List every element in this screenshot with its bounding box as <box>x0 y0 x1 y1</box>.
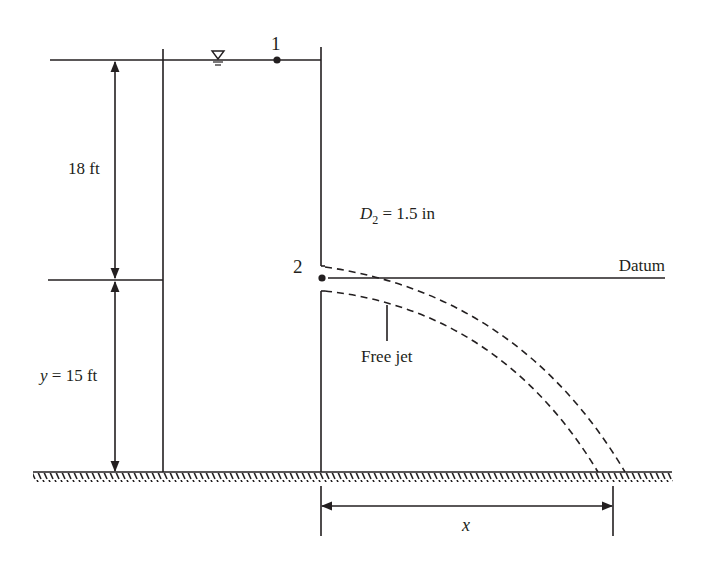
datum-label: Datum <box>619 256 665 275</box>
tank-diagram: 1 18 ft y = 15 ft 2 Datum D2 = 1.5 in Fr… <box>0 0 710 571</box>
point-1-label: 1 <box>271 33 281 54</box>
jet-upper-boundary <box>325 267 625 472</box>
ground-hatching <box>33 473 673 482</box>
height-below-label: y = 15 ft <box>38 366 98 385</box>
point-2-label: 2 <box>293 256 303 277</box>
diameter-label: D2 = 1.5 in <box>359 204 436 227</box>
free-jet-label: Free jet <box>361 347 413 366</box>
height-above-label: 18 ft <box>68 159 100 178</box>
horizontal-distance-label: x <box>461 515 470 535</box>
jet-lower-boundary <box>325 291 598 472</box>
point-2-marker <box>318 274 325 281</box>
free-surface-icon <box>212 51 224 65</box>
point-1-marker <box>273 56 280 63</box>
